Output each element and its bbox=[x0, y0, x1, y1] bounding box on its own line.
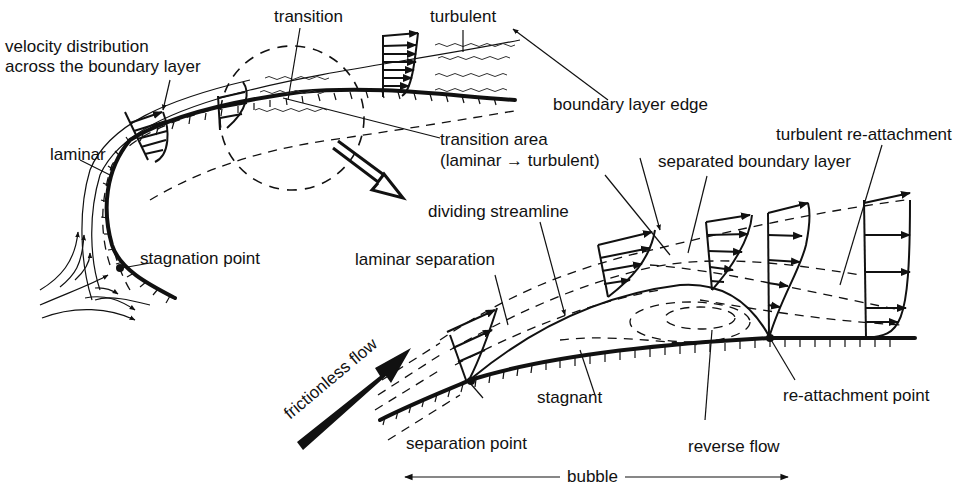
label-transition: transition bbox=[274, 7, 343, 26]
label-laminar: laminar bbox=[50, 145, 106, 164]
boundary-layer-diagram: velocity distribution across the boundar… bbox=[0, 0, 965, 489]
label-velocity-distribution-2: across the boundary layer bbox=[5, 57, 201, 76]
labels: velocity distribution across the boundar… bbox=[5, 7, 952, 486]
label-transition-area-1: transition area bbox=[440, 130, 548, 149]
separated-velocity-profile bbox=[598, 230, 655, 297]
label-turbulent-reattachment: turbulent re-attachment bbox=[776, 125, 952, 144]
label-reverse-flow: reverse flow bbox=[688, 437, 780, 456]
transition-area-circle bbox=[220, 46, 364, 190]
zoom-arrow-icon bbox=[333, 141, 403, 198]
turbulent-reattached-velocity-profile bbox=[864, 193, 910, 338]
label-frictionless-flow: frictionless flow bbox=[280, 334, 381, 423]
turbulent-velocity-profile bbox=[383, 33, 418, 97]
label-transition-area-2: (laminar → turbulent) bbox=[440, 151, 600, 170]
label-bubble: bubble bbox=[567, 467, 618, 486]
label-stagnation-point: stagnation point bbox=[140, 249, 260, 268]
leading-edge-body bbox=[40, 33, 520, 320]
label-velocity-distribution-1: velocity distribution bbox=[5, 37, 149, 56]
label-stagnant: stagnant bbox=[537, 388, 602, 407]
label-dividing-streamline: dividing streamline bbox=[428, 202, 569, 221]
label-separation-point: separation point bbox=[406, 434, 527, 453]
label-boundary-layer-edge: boundary layer edge bbox=[553, 95, 708, 114]
separation-bubble-panel bbox=[297, 193, 915, 477]
reattachment-velocity-profile bbox=[768, 203, 809, 338]
leader-lines bbox=[80, 28, 882, 420]
label-laminar-separation: laminar separation bbox=[355, 250, 495, 269]
separation-velocity-profile bbox=[447, 308, 497, 380]
label-turbulent: turbulent bbox=[430, 7, 496, 26]
label-separated-boundary-layer: separated boundary layer bbox=[658, 152, 851, 171]
label-reattachment-point: re-attachment point bbox=[783, 386, 930, 405]
